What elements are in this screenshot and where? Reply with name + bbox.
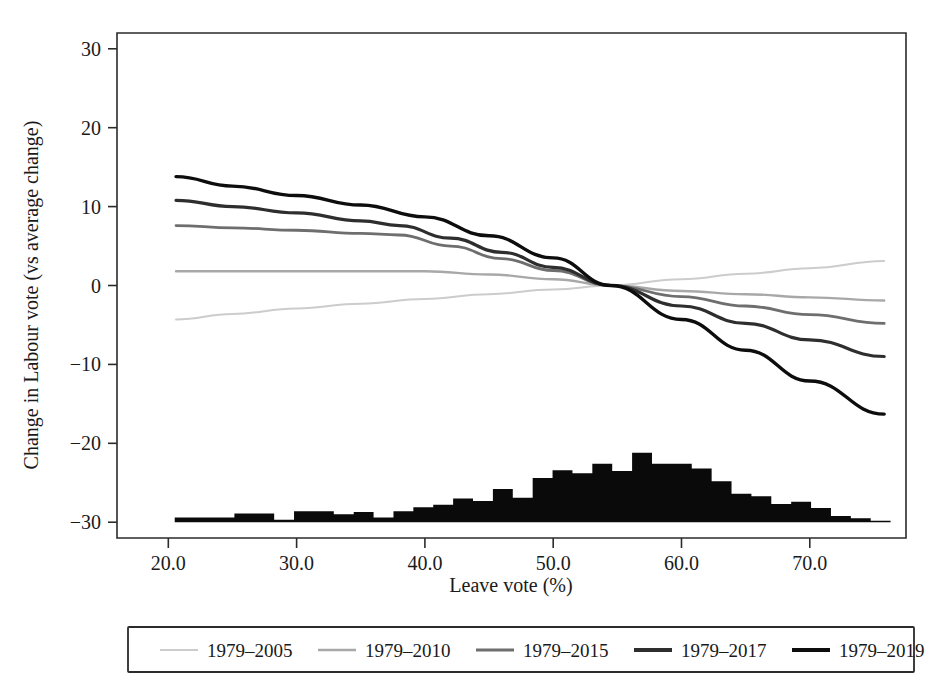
series-line-1979-2010 bbox=[176, 271, 884, 300]
legend-label: 1979–2005 bbox=[207, 640, 293, 661]
legend: 1979–20051979–20101979–20151979–20171979… bbox=[128, 627, 925, 672]
x-tick-label: 70.0 bbox=[792, 552, 827, 574]
y-tick-label: −20 bbox=[70, 432, 101, 454]
y-tick-label: −30 bbox=[70, 511, 101, 533]
y-tick-label: 0 bbox=[91, 275, 101, 297]
legend-label: 1979–2015 bbox=[523, 640, 609, 661]
histogram-bars bbox=[175, 453, 891, 522]
y-axis: −30−20−100102030 bbox=[70, 38, 117, 533]
chart-canvas: −30−20−100102030 20.030.040.050.060.070.… bbox=[0, 0, 941, 700]
x-axis: 20.030.040.050.060.070.0 bbox=[151, 538, 827, 574]
series-lines bbox=[176, 177, 884, 415]
plot-frame bbox=[117, 33, 906, 538]
legend-label: 1979–2019 bbox=[839, 640, 925, 661]
y-tick-label: 20 bbox=[81, 117, 101, 139]
x-tick-label: 20.0 bbox=[151, 552, 186, 574]
leave-vote-histogram bbox=[175, 453, 891, 522]
y-tick-label: 30 bbox=[81, 38, 101, 60]
x-axis-title: Leave vote (%) bbox=[449, 574, 572, 597]
x-tick-label: 30.0 bbox=[279, 552, 314, 574]
legend-label: 1979–2017 bbox=[681, 640, 767, 661]
y-tick-label: −10 bbox=[70, 353, 101, 375]
legend-items: 1979–20051979–20101979–20151979–20171979… bbox=[160, 640, 925, 661]
x-tick-label: 50.0 bbox=[536, 552, 571, 574]
y-axis-title: Change in Labour vote (vs average change… bbox=[20, 121, 43, 470]
figure-container: −30−20−100102030 20.030.040.050.060.070.… bbox=[0, 0, 941, 700]
y-tick-label: 10 bbox=[81, 196, 101, 218]
legend-label: 1979–2010 bbox=[365, 640, 451, 661]
x-tick-label: 40.0 bbox=[407, 552, 442, 574]
x-tick-label: 60.0 bbox=[664, 552, 699, 574]
